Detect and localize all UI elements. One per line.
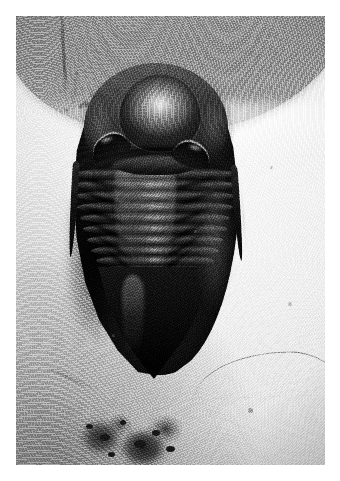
matrix-pit — [112, 334, 115, 337]
matrix-pit — [56, 274, 59, 277]
right-flank-rim-light — [188, 171, 234, 341]
matrix-pit — [194, 230, 197, 233]
debris-speck — [100, 434, 110, 441]
debris-speck — [134, 440, 146, 448]
debris-speck — [86, 424, 93, 429]
debris-patch — [78, 412, 182, 465]
debris-speck — [166, 446, 175, 452]
matrix-pit — [288, 302, 292, 306]
matrix-pit — [248, 408, 253, 413]
debris-speck — [152, 430, 160, 436]
glabella-highlight — [140, 89, 180, 121]
debris-speck — [120, 420, 126, 425]
photograph — [16, 16, 325, 465]
photo-page — [0, 0, 340, 481]
matrix-pit — [270, 166, 273, 169]
matrix-pit — [64, 108, 68, 112]
trilobite-fossil — [62, 61, 248, 381]
debris-speck — [108, 452, 115, 457]
